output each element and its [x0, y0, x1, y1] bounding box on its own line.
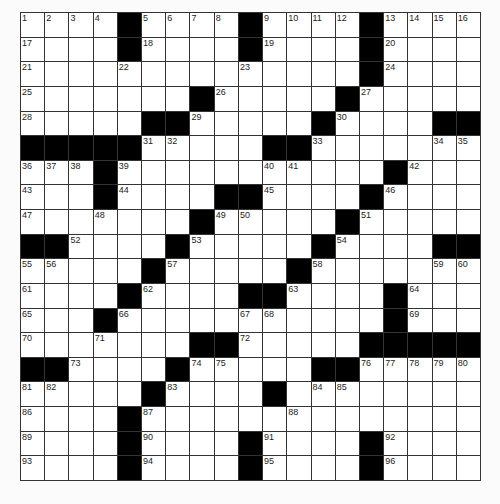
crossword-cell[interactable]: 32	[166, 136, 189, 160]
crossword-cell[interactable]: 42	[408, 161, 431, 185]
crossword-cell[interactable]	[433, 432, 456, 456]
crossword-cell[interactable]: 1	[21, 13, 44, 37]
crossword-cell[interactable]	[94, 432, 117, 456]
crossword-cell[interactable]	[166, 309, 189, 333]
crossword-cell[interactable]: 83	[166, 382, 189, 406]
crossword-cell[interactable]	[215, 407, 238, 431]
crossword-cell[interactable]	[69, 456, 92, 480]
crossword-cell[interactable]	[166, 210, 189, 234]
crossword-cell[interactable]: 25	[21, 87, 44, 111]
crossword-cell[interactable]: 3	[69, 13, 92, 37]
crossword-cell[interactable]: 46	[384, 185, 407, 209]
crossword-cell[interactable]: 27	[360, 87, 383, 111]
crossword-cell[interactable]	[94, 456, 117, 480]
crossword-cell[interactable]	[190, 38, 213, 62]
crossword-cell[interactable]: 80	[457, 358, 480, 382]
crossword-cell[interactable]	[190, 309, 213, 333]
crossword-cell[interactable]	[239, 112, 262, 136]
crossword-cell[interactable]: 57	[166, 259, 189, 283]
crossword-cell[interactable]: 40	[263, 161, 286, 185]
crossword-cell[interactable]	[190, 407, 213, 431]
crossword-cell[interactable]	[142, 235, 165, 259]
crossword-cell[interactable]	[69, 210, 92, 234]
crossword-cell[interactable]	[433, 407, 456, 431]
crossword-cell[interactable]	[190, 284, 213, 308]
crossword-cell[interactable]	[190, 136, 213, 160]
crossword-cell[interactable]	[142, 185, 165, 209]
crossword-cell[interactable]: 17	[21, 38, 44, 62]
crossword-cell[interactable]	[287, 210, 310, 234]
crossword-cell[interactable]	[118, 210, 141, 234]
crossword-cell[interactable]	[384, 407, 407, 431]
crossword-cell[interactable]	[166, 62, 189, 86]
crossword-cell[interactable]	[336, 38, 359, 62]
crossword-cell[interactable]	[287, 333, 310, 357]
crossword-cell[interactable]	[360, 284, 383, 308]
crossword-cell[interactable]	[312, 407, 335, 431]
crossword-cell[interactable]	[215, 284, 238, 308]
crossword-cell[interactable]	[336, 309, 359, 333]
crossword-cell[interactable]: 88	[287, 407, 310, 431]
crossword-cell[interactable]: 44	[118, 185, 141, 209]
crossword-cell[interactable]	[457, 309, 480, 333]
crossword-cell[interactable]	[166, 87, 189, 111]
crossword-cell[interactable]	[433, 382, 456, 406]
crossword-cell[interactable]	[166, 161, 189, 185]
crossword-cell[interactable]: 51	[360, 210, 383, 234]
crossword-cell[interactable]	[94, 358, 117, 382]
crossword-cell[interactable]	[336, 432, 359, 456]
crossword-cell[interactable]	[433, 309, 456, 333]
crossword-cell[interactable]	[215, 456, 238, 480]
crossword-cell[interactable]: 37	[45, 161, 68, 185]
crossword-cell[interactable]	[312, 456, 335, 480]
crossword-cell[interactable]	[215, 259, 238, 283]
crossword-cell[interactable]	[118, 358, 141, 382]
crossword-cell[interactable]	[408, 456, 431, 480]
crossword-cell[interactable]	[336, 62, 359, 86]
crossword-cell[interactable]: 58	[312, 259, 335, 283]
crossword-cell[interactable]	[408, 259, 431, 283]
crossword-cell[interactable]: 8	[215, 13, 238, 37]
crossword-cell[interactable]	[94, 87, 117, 111]
crossword-cell[interactable]	[118, 382, 141, 406]
crossword-cell[interactable]	[239, 87, 262, 111]
crossword-cell[interactable]	[408, 62, 431, 86]
crossword-cell[interactable]: 56	[45, 259, 68, 283]
crossword-cell[interactable]: 75	[215, 358, 238, 382]
crossword-cell[interactable]	[215, 112, 238, 136]
crossword-cell[interactable]	[118, 112, 141, 136]
crossword-cell[interactable]: 63	[287, 284, 310, 308]
crossword-cell[interactable]	[94, 382, 117, 406]
crossword-cell[interactable]: 2	[45, 13, 68, 37]
crossword-cell[interactable]	[263, 112, 286, 136]
crossword-cell[interactable]	[45, 432, 68, 456]
crossword-cell[interactable]	[408, 87, 431, 111]
crossword-cell[interactable]: 89	[21, 432, 44, 456]
crossword-cell[interactable]	[215, 136, 238, 160]
crossword-cell[interactable]	[433, 284, 456, 308]
crossword-cell[interactable]	[384, 259, 407, 283]
crossword-cell[interactable]	[384, 112, 407, 136]
crossword-cell[interactable]	[69, 382, 92, 406]
crossword-cell[interactable]: 94	[142, 456, 165, 480]
crossword-cell[interactable]	[45, 309, 68, 333]
crossword-cell[interactable]	[45, 112, 68, 136]
crossword-cell[interactable]: 82	[45, 382, 68, 406]
crossword-cell[interactable]: 48	[94, 210, 117, 234]
crossword-cell[interactable]: 38	[69, 161, 92, 185]
crossword-cell[interactable]	[336, 161, 359, 185]
crossword-cell[interactable]	[118, 333, 141, 357]
crossword-cell[interactable]	[166, 185, 189, 209]
crossword-cell[interactable]	[142, 210, 165, 234]
crossword-cell[interactable]: 24	[384, 62, 407, 86]
crossword-cell[interactable]: 90	[142, 432, 165, 456]
crossword-cell[interactable]	[94, 62, 117, 86]
crossword-cell[interactable]: 85	[336, 382, 359, 406]
crossword-cell[interactable]	[360, 309, 383, 333]
crossword-cell[interactable]: 79	[433, 358, 456, 382]
crossword-cell[interactable]	[190, 62, 213, 86]
crossword-cell[interactable]: 4	[94, 13, 117, 37]
crossword-cell[interactable]	[215, 235, 238, 259]
crossword-cell[interactable]	[69, 259, 92, 283]
crossword-cell[interactable]: 70	[21, 333, 44, 357]
